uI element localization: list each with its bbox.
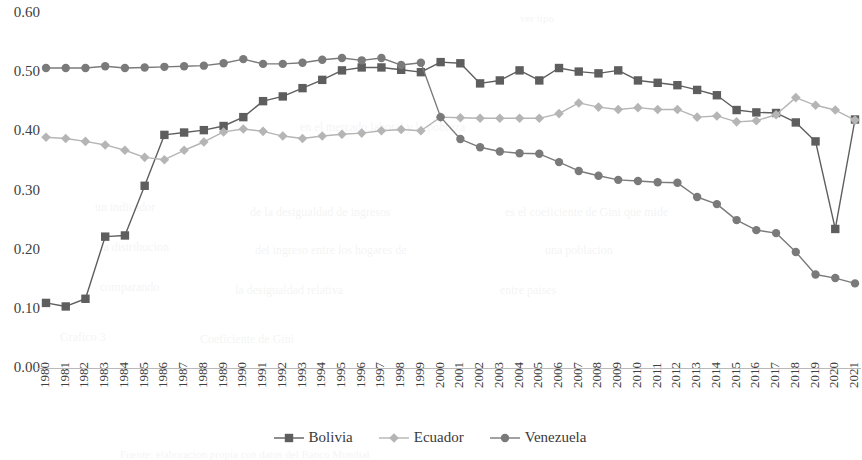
data-point-marker: [555, 64, 563, 72]
data-point-marker: [752, 116, 762, 126]
data-point-marker: [377, 63, 385, 71]
data-point-marker: [436, 58, 444, 66]
data-point-marker: [830, 105, 840, 115]
x-axis-tick-label: 2015: [728, 362, 742, 388]
data-point-marker: [574, 98, 584, 108]
data-point-marker: [732, 216, 740, 224]
data-point-marker: [219, 59, 227, 67]
x-axis-tick-label: 2013: [688, 362, 702, 388]
x-axis-tick-label: 2017: [767, 362, 781, 388]
x-axis-tick-label: 1985: [136, 362, 150, 388]
data-point-marker: [732, 117, 742, 127]
data-point-marker: [140, 153, 150, 163]
data-point-marker: [772, 229, 780, 237]
data-point-marker: [792, 118, 800, 126]
x-axis-tick-label: 1991: [254, 362, 268, 388]
data-point-marker: [61, 134, 71, 144]
data-point-marker: [417, 59, 425, 67]
data-point-marker: [594, 102, 604, 112]
data-point-marker: [495, 114, 505, 124]
data-point-marker: [456, 113, 466, 123]
series-venezuela: [42, 54, 859, 288]
x-axis-tick-label: 1981: [57, 362, 71, 388]
data-point-marker: [101, 62, 109, 70]
legend-item-bolivia[interactable]: Bolivia: [274, 430, 353, 445]
x-axis-tick-label: 2018: [787, 362, 801, 388]
data-point-marker: [634, 76, 642, 84]
legend-label: Bolivia: [309, 430, 353, 445]
data-point-marker: [811, 101, 821, 111]
data-point-marker: [575, 167, 583, 175]
data-point-marker: [317, 131, 327, 141]
x-axis-tick-label: 1984: [116, 362, 130, 388]
legend-label: Venezuela: [525, 430, 587, 445]
data-point-marker: [62, 302, 70, 310]
data-point-marker: [831, 274, 839, 282]
data-point-marker: [496, 76, 504, 84]
data-point-marker: [298, 134, 308, 144]
x-axis-tick-label: 2011: [649, 362, 663, 388]
data-point-marker: [318, 56, 326, 64]
data-point-marker: [81, 295, 89, 303]
data-point-marker: [284, 433, 292, 441]
data-point-marker: [160, 131, 168, 139]
data-point-marker: [397, 61, 405, 69]
data-point-marker: [278, 131, 288, 141]
data-point-marker: [673, 81, 681, 89]
data-point-marker: [501, 433, 509, 441]
data-point-marker: [456, 59, 464, 67]
data-point-marker: [673, 105, 683, 115]
data-point-marker: [337, 129, 347, 139]
x-axis-tick-label: 1986: [155, 362, 169, 388]
data-point-marker: [62, 64, 70, 72]
x-axis-tick-label: 2021: [846, 362, 860, 388]
data-point-marker: [831, 225, 839, 233]
data-point-marker: [535, 150, 543, 158]
x-axis-tick-label: 2003: [491, 362, 505, 388]
legend-item-venezuela[interactable]: Venezuela: [490, 430, 587, 445]
x-axis-tick-label: 2010: [629, 362, 643, 388]
data-point-marker: [851, 279, 859, 287]
data-point-marker: [377, 54, 385, 62]
data-point-marker: [673, 179, 681, 187]
data-point-marker: [42, 299, 50, 307]
data-point-marker: [476, 143, 484, 151]
data-point-marker: [594, 172, 602, 180]
data-point-marker: [121, 231, 129, 239]
x-axis-tick-label: 1990: [234, 362, 248, 388]
data-point-marker: [180, 62, 188, 70]
data-point-marker: [475, 114, 485, 124]
data-point-marker: [712, 111, 722, 121]
legend-marker-square-icon: [274, 431, 304, 445]
data-point-marker: [160, 63, 168, 71]
data-point-marker: [239, 124, 249, 134]
x-axis-tick-label: 1995: [333, 362, 347, 388]
data-point-marker: [515, 149, 523, 157]
data-point-marker: [298, 84, 306, 92]
data-point-marker: [693, 86, 701, 94]
data-point-marker: [396, 125, 406, 135]
x-axis-tick-label: 2008: [589, 362, 603, 388]
data-point-marker: [259, 97, 267, 105]
data-point-marker: [634, 177, 642, 185]
data-point-marker: [338, 54, 346, 62]
data-point-marker: [140, 182, 148, 190]
data-point-marker: [535, 76, 543, 84]
legend-label: Ecuador: [414, 430, 464, 445]
x-axis-tick-label: 2014: [708, 362, 722, 388]
series-bolivia: [42, 58, 859, 311]
data-point-marker: [692, 112, 702, 122]
data-point-marker: [555, 158, 563, 166]
data-point-marker: [811, 137, 819, 145]
data-point-marker: [239, 55, 247, 63]
x-axis-tick-label: 1998: [392, 362, 406, 388]
data-point-marker: [436, 113, 444, 121]
data-point-marker: [81, 137, 91, 147]
x-axis-tick-label: 1982: [76, 362, 90, 388]
data-point-marker: [613, 105, 623, 115]
data-point-marker: [140, 63, 148, 71]
legend-item-ecuador[interactable]: Ecuador: [379, 430, 464, 445]
data-point-marker: [199, 137, 209, 147]
data-point-marker: [298, 59, 306, 67]
